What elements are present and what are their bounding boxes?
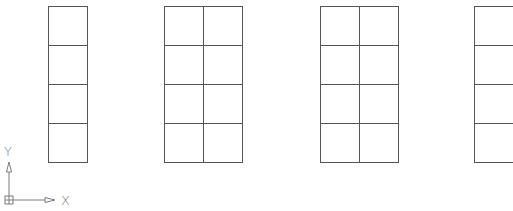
y-axis-label: Y	[4, 145, 12, 158]
x-arrow-icon	[45, 198, 55, 203]
drawing-canvas[interactable]: Y X	[0, 0, 513, 211]
ucs-icon	[0, 0, 513, 211]
x-axis-label: X	[61, 194, 70, 207]
y-arrow-icon	[7, 162, 12, 172]
